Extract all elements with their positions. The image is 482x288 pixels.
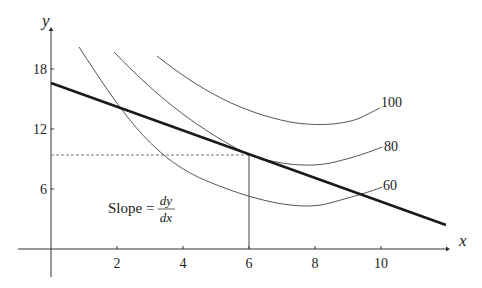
x-tick-label: 8: [312, 256, 319, 271]
tick-labels: 2 4 6 8 10 18 12 6: [33, 62, 388, 271]
slope-prefix: Slope =: [108, 200, 154, 216]
x-tick-label: 6: [246, 256, 253, 271]
slope-numerator: dy: [160, 193, 173, 208]
curve-label-80: 80: [384, 139, 398, 154]
indifference-curve-80: [114, 52, 382, 165]
x-axis-arrow-icon: [446, 247, 450, 252]
slope-annotation: Slope = dy dx: [108, 193, 175, 225]
indifference-curve-100: [157, 56, 380, 125]
x-axis-label: x: [458, 231, 467, 250]
y-axis-label: y: [40, 11, 50, 30]
y-tick-label: 6: [40, 182, 47, 197]
indifference-curve-chart: 2 4 6 8 10 18 12 6 x y 100 80 60 Slope =…: [0, 0, 482, 288]
x-tick-label: 2: [114, 256, 121, 271]
y-tick-label: 12: [33, 122, 47, 137]
indifference-curve-60: [79, 47, 382, 206]
x-tick-label: 4: [180, 256, 187, 271]
indifference-curves: [79, 47, 382, 206]
curve-label-100: 100: [381, 95, 402, 110]
slope-denominator: dx: [160, 210, 173, 225]
x-tick-label: 10: [374, 256, 388, 271]
y-tick-label: 18: [33, 62, 47, 77]
curve-label-60: 60: [383, 178, 397, 193]
